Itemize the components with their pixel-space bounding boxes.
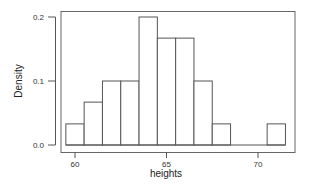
histogram-bar <box>139 17 157 145</box>
histogram-bar <box>121 81 139 145</box>
y-tick-label: 0.0 <box>33 141 45 150</box>
histogram-bar <box>212 124 230 145</box>
histogram-bars <box>66 17 286 145</box>
histogram-bar <box>102 81 120 145</box>
histogram-bar <box>84 102 102 145</box>
y-tick-label: 0.2 <box>33 13 45 22</box>
histogram-chart: 0.00.10.2 606570 heights Density <box>0 0 313 189</box>
y-tick-label: 0.1 <box>33 77 45 86</box>
y-axis-ticks: 0.00.10.2 <box>33 13 56 150</box>
histogram-bar <box>66 124 84 145</box>
histogram-bar <box>194 81 212 145</box>
histogram-bar <box>267 124 285 145</box>
x-tick-label: 70 <box>254 160 263 169</box>
x-axis-label: heights <box>150 168 182 179</box>
x-tick-label: 60 <box>71 160 80 169</box>
histogram-bar <box>176 38 194 145</box>
histogram-bar <box>157 38 175 145</box>
x-axis-ticks: 606570 <box>71 153 263 170</box>
y-axis-label: Density <box>13 64 24 97</box>
